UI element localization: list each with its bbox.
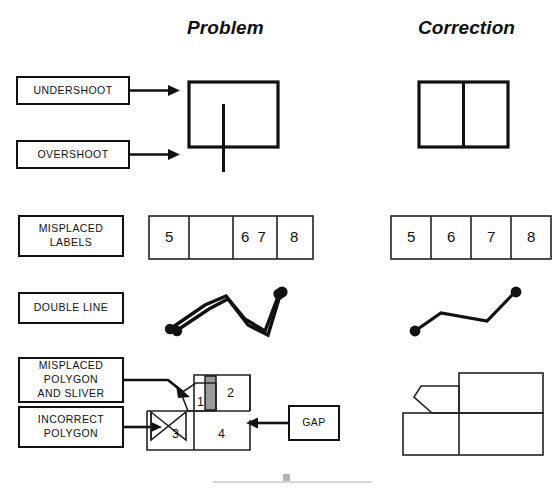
- arrow-gap: [246, 418, 288, 429]
- cell-value-correction-2: 7: [487, 228, 495, 245]
- cell-value-correction-0: 5: [407, 228, 415, 245]
- scan-artifact: [213, 474, 372, 482]
- figure-double-line-correction: [410, 287, 522, 337]
- figure-polygon-errors-problem: [147, 375, 250, 450]
- polygon-number-1: 1: [197, 395, 204, 409]
- arrow-misplaced-polygon: [124, 380, 190, 398]
- figure-undershoot-overshoot-correction: [419, 82, 508, 147]
- arrow-undershoot: [130, 85, 180, 96]
- arrow-overshoot: [130, 149, 180, 160]
- figure-double-line-problem: [165, 286, 288, 336]
- arrow-incorrect-polygon: [124, 422, 162, 433]
- figure-polygon-errors-correction: [403, 373, 543, 455]
- polygon-number-2: 2: [227, 386, 234, 400]
- cell-value-problem-3: 8: [290, 228, 298, 245]
- cell-value-correction-1: 6: [447, 228, 455, 245]
- cell-value-correction-3: 8: [527, 228, 535, 245]
- figure-misplaced-labels-problem: [149, 216, 313, 259]
- figure-undershoot-overshoot-problem: [189, 82, 278, 172]
- polygon-number-3: 3: [172, 427, 179, 441]
- diagram-canvas: Problem Correction UNDERSHOOT OVERSHOOT …: [0, 0, 555, 494]
- polygon-number-4: 4: [218, 427, 225, 441]
- cell-value-problem-0: 5: [165, 228, 173, 245]
- figure-vector-layer: [0, 0, 555, 494]
- cell-value-problem-2: 6 7: [241, 228, 268, 245]
